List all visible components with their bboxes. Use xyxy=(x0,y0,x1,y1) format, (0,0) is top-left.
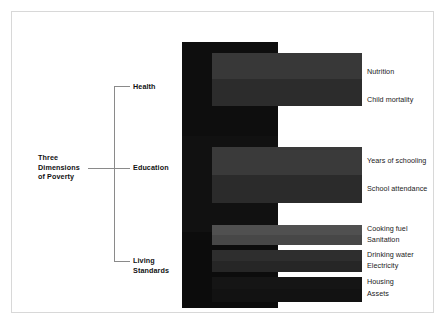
indicator-label-drinking-water: Drinking water xyxy=(367,250,414,259)
indicator-bar-housing xyxy=(212,277,362,289)
indicator-label-sanitation: Sanitation xyxy=(367,235,399,244)
indicator-bar-child-mortality xyxy=(212,79,362,106)
root-connector-line xyxy=(88,168,115,169)
indicator-bar-sanitation xyxy=(212,235,362,245)
root-label-line-3: of Poverty xyxy=(38,172,100,182)
dimension-label-education: Education xyxy=(133,163,181,173)
indicator-label-cooking-fuel: Cooking fuel xyxy=(367,224,408,233)
root-label-line-1: Three xyxy=(38,153,100,163)
indicator-bar-assets xyxy=(212,289,362,302)
branch-connector-education xyxy=(114,168,130,169)
dimension-label-living-standards-line-2: Standards xyxy=(133,266,181,276)
indicator-bar-drinking-water xyxy=(212,250,362,261)
branch-connector-living-standards xyxy=(114,261,130,262)
indicator-label-school-attendance: School attendance xyxy=(367,184,427,193)
indicator-bar-cooking-fuel xyxy=(212,225,362,235)
dimension-label-health-line-1: Health xyxy=(133,82,181,92)
dimension-label-living-standards: Living Standards xyxy=(133,256,181,275)
indicator-bar-years-of-schooling xyxy=(212,147,362,175)
dimension-label-living-standards-line-1: Living xyxy=(133,256,181,266)
indicator-bar-school-attendance xyxy=(212,175,362,203)
indicator-label-nutrition: Nutrition xyxy=(367,67,394,76)
indicator-label-assets: Assets xyxy=(367,289,389,298)
branch-connector-health xyxy=(114,86,130,87)
indicator-label-years-of-schooling: Years of schooling xyxy=(367,156,426,165)
indicator-label-child-mortality: Child mortality xyxy=(367,95,413,104)
indicator-bar-nutrition xyxy=(212,53,362,79)
dimension-label-education-line-1: Education xyxy=(133,163,181,173)
indicator-bar-electricity xyxy=(212,261,362,272)
dimension-label-health: Health xyxy=(133,82,181,92)
indicator-label-electricity: Electricity xyxy=(367,261,398,270)
diagram-page: Three Dimensions of Poverty Health Educa… xyxy=(0,0,447,327)
diagram-frame: Three Dimensions of Poverty Health Educa… xyxy=(11,11,434,313)
bracket-spine-line xyxy=(114,86,115,261)
indicator-label-housing: Housing xyxy=(367,277,394,286)
